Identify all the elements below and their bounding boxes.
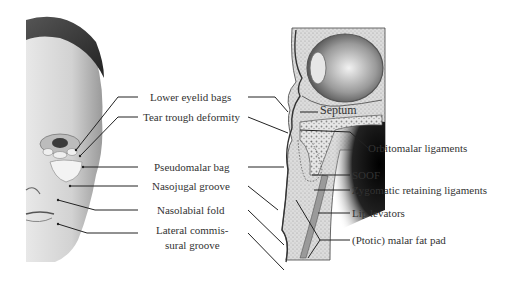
- label-soof: SOOF: [352, 169, 380, 182]
- label-lip-levators: Lip levators: [352, 207, 405, 220]
- label-pseudomalar-bag: Pseudomalar bag: [154, 161, 229, 174]
- label-nasojugal-groove: Nasojugal groove: [152, 180, 230, 193]
- middle-leader-lines: [248, 97, 288, 270]
- label-lower-eyelid-bags: Lower eyelid bags: [150, 91, 231, 104]
- label-nasolabial-fold: Nasolabial fold: [157, 204, 225, 217]
- label-septum: Septum: [320, 104, 357, 117]
- label-tear-trough-deformity: Tear trough deformity: [143, 111, 240, 124]
- label-lateral-commissural-groove-2: sural groove: [165, 239, 220, 252]
- anatomy-figure: Lower eyelid bags Tear trough deformity …: [0, 0, 514, 288]
- label-lateral-commissural-groove-1: Lateral commis-: [156, 224, 228, 237]
- face-illustration: [26, 17, 104, 262]
- label-ptotic-malar-fat-pad: (Ptotic) malar fat pad: [352, 234, 446, 247]
- label-zygomatic-retaining-ligaments: Zygomatic retaining ligaments: [352, 184, 487, 197]
- label-orbitomalar-ligaments: Orbitomalar ligaments: [368, 142, 467, 155]
